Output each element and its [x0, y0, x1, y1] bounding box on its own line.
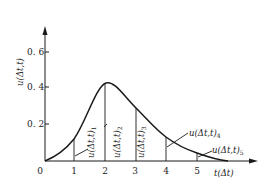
- ordinate-label-5: u(Δt,t)5: [212, 145, 244, 156]
- x-axis-label: t(Δt): [214, 168, 234, 178]
- leader-2: [104, 124, 107, 127]
- axes: [43, 26, 259, 164]
- ordinate-label-4: u(Δt,t)4: [189, 128, 221, 139]
- x-tick-label-5: 5: [194, 166, 200, 176]
- y-tick-label-0.6: 0. 6: [27, 47, 44, 57]
- unit-hydrograph-chart: 0. 2 0. 4 0. 6 u(Δt,t) 0 1 2 3 4 5 t(Δt)…: [0, 0, 271, 187]
- x-axis-arrow-icon: [249, 159, 258, 164]
- ordinate-label-2: u(Δt,t)2: [112, 126, 123, 158]
- x-tick-label-1: 1: [71, 166, 77, 176]
- ordinate-label-3: u(Δt,t)3: [136, 126, 147, 158]
- x-tick-label-2: 2: [102, 166, 108, 176]
- x-tick-label-3: 3: [132, 166, 138, 176]
- y-axis-label: u(Δt,t): [15, 58, 25, 86]
- x-tick-label-0: 0: [37, 166, 43, 176]
- y-axis-arrow-icon: [43, 26, 48, 35]
- y-tick-label-0.4: 0. 4: [27, 82, 44, 92]
- ordinate-label-1: u(Δt,t)1: [86, 126, 97, 158]
- y-tick-label-0.2: 0. 2: [27, 119, 44, 129]
- x-tick-label-4: 4: [163, 166, 169, 176]
